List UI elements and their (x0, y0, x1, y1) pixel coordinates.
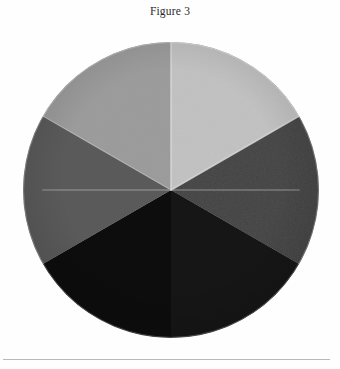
disc-vignette (23, 42, 319, 338)
color-wheel-figure (0, 0, 340, 345)
pie-chart-svg (0, 0, 340, 345)
footer-divider (3, 359, 330, 360)
